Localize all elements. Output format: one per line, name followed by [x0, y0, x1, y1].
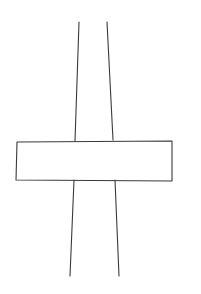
background	[0, 0, 201, 294]
cross-sketch	[0, 0, 201, 294]
